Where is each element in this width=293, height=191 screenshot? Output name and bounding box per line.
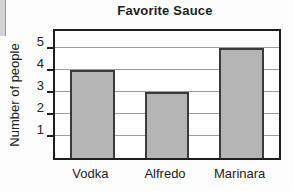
bar-chart-figure: Favorite Sauce Number of people 12345 Vo…	[0, 0, 293, 191]
x-tick-label-marinara: Marinara	[214, 166, 265, 181]
y-tick-label-1: 1	[37, 123, 44, 136]
y-tick-mark-5	[47, 47, 53, 49]
y-tick-mark-1	[47, 135, 53, 137]
x-tick-label-vodka: Vodka	[72, 166, 108, 181]
y-tick-label-2: 2	[37, 100, 44, 113]
x-tick-label-alfredo: Alfredo	[144, 166, 185, 181]
y-axis-label: Number of people	[7, 43, 22, 146]
y-tick-label-4: 4	[37, 56, 44, 69]
y-tick-label-5: 5	[37, 34, 44, 47]
scan-artifact-strip	[0, 0, 6, 36]
bar-vodka	[70, 70, 115, 158]
bar-marinara	[219, 48, 264, 158]
y-tick-mark-4	[47, 69, 53, 71]
bar-alfredo	[145, 92, 190, 158]
plot-area: 12345	[53, 29, 281, 160]
y-tick-mark-2	[47, 113, 53, 115]
y-tick-label-3: 3	[37, 78, 44, 91]
chart-title: Favorite Sauce	[53, 3, 277, 18]
y-tick-mark-3	[47, 91, 53, 93]
